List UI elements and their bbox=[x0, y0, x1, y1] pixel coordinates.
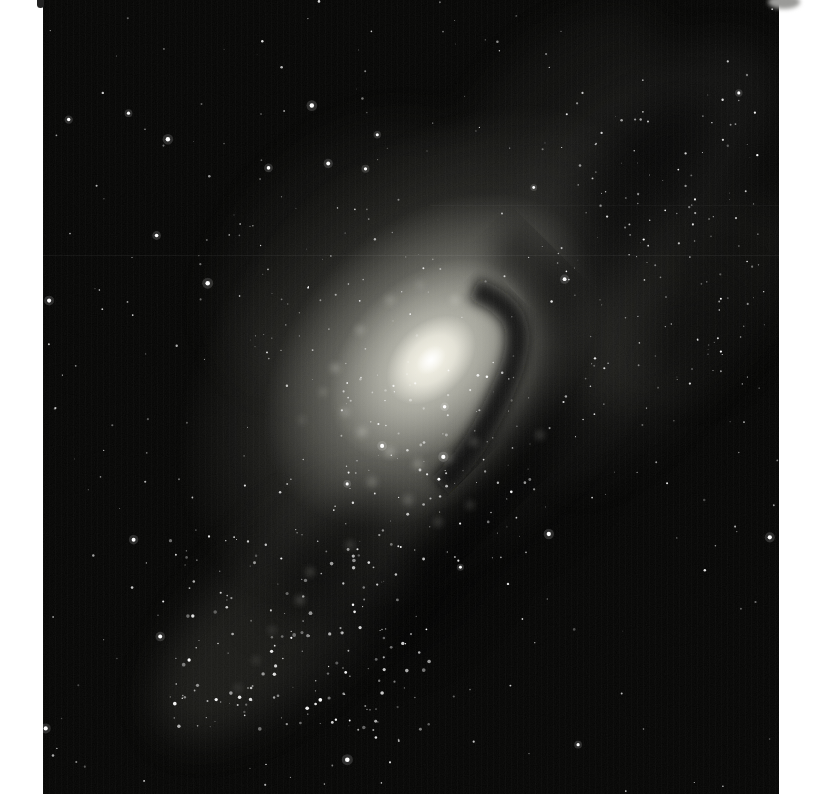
photo-print bbox=[43, 0, 779, 794]
film-grain bbox=[43, 0, 779, 794]
page bbox=[0, 0, 821, 799]
galaxy-photograph bbox=[43, 0, 779, 794]
print-corner-notch bbox=[37, 0, 44, 8]
